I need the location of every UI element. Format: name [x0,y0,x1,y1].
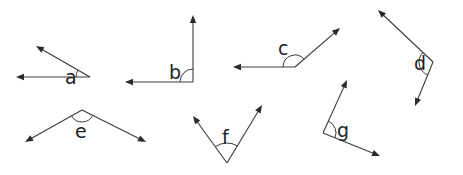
angle-c: c [233,28,340,70]
ray-line [227,108,260,163]
arrowhead-icon [125,79,133,85]
arrowhead-icon [341,80,347,89]
angle-d: d [378,10,433,106]
ray-line [28,110,82,140]
arrowhead-icon [16,74,24,80]
arrowhead-icon [233,64,241,70]
arrowhead-icon [193,116,200,124]
angle-label: d [414,52,426,74]
arrowhead-icon [190,15,196,23]
angle-f: f [193,105,262,163]
angle-e: e [25,110,146,142]
angle-b: b [125,15,196,85]
arrowhead-icon [25,135,34,142]
ray-line [295,31,337,67]
angle-a: a [16,46,90,88]
arrowhead-icon [255,105,262,114]
angle-g: g [323,80,380,156]
angle-label: e [75,120,87,142]
arrowhead-icon [371,150,380,156]
arrowhead-icon [415,97,421,106]
angle-label: b [169,61,181,83]
angle-label: f [222,126,230,148]
angle-label: a [65,66,77,88]
ray-line [323,133,376,155]
angle-label: g [337,119,349,141]
angle-arc [180,69,193,82]
arrowhead-icon [36,46,45,53]
angles-layer: abcdefg [16,10,433,163]
ray-line [82,110,142,140]
angles-diagram: abcdefg [0,0,463,175]
angle-label: c [278,37,288,59]
arrowhead-icon [137,136,146,142]
